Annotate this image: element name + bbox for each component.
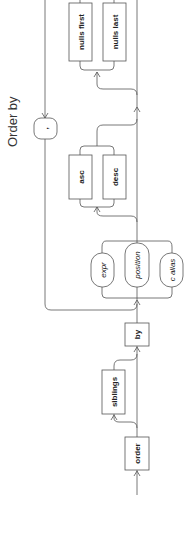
desc-keyword: desc [111,167,120,186]
comma-separator: , [41,127,50,129]
nulls-first-keyword: nulls first [77,14,86,50]
position-nonterminal: position [133,251,142,280]
order-keyword: order [133,443,142,463]
siblings-keyword: siblings [110,376,119,407]
asc-keyword: asc [77,170,86,184]
diagram-title: Order by [5,96,20,147]
nulls-last-keyword: nulls last [111,14,120,49]
c-alias-nonterminal: c alias [168,259,177,282]
expr-nonterminal: expr [99,262,108,278]
by-keyword: by [133,329,142,339]
railroad-diagram: Order by order siblings by expr position… [0,0,187,542]
